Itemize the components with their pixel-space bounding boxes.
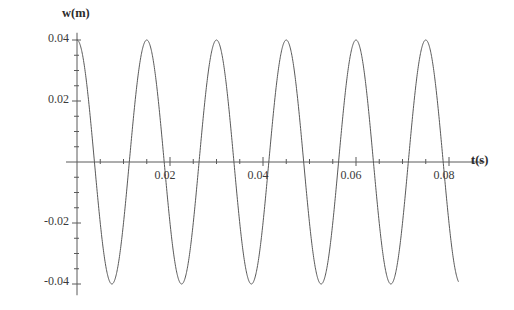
- y-axis-title: w(m): [62, 6, 90, 21]
- x-tick-label-0.04: 0.04: [234, 168, 282, 183]
- x-tick-label-0.02: 0.02: [141, 168, 189, 183]
- x-tick-label-0.08: 0.08: [420, 168, 468, 183]
- y-tick-label-0.04: 0.04: [16, 31, 69, 46]
- x-axis-title: t(s): [471, 153, 488, 168]
- plot-canvas: [0, 0, 514, 310]
- x-tick-label-0.06: 0.06: [327, 168, 375, 183]
- y-tick-label-0.02: 0.02: [16, 92, 69, 107]
- chart-figure: w(m) t(s) 0.04 0.02 -0.02 -0.04 0.02 0.0…: [0, 0, 514, 310]
- y-tick-label-neg0.02: -0.02: [16, 214, 69, 229]
- y-tick-label-neg0.04: -0.04: [16, 274, 69, 289]
